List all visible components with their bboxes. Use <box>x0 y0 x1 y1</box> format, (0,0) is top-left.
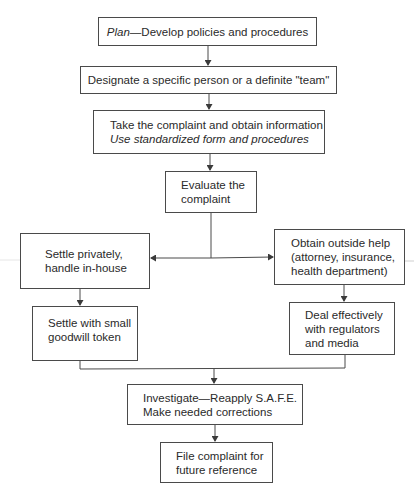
node-evaluate: Evaluate the complaint <box>165 171 257 213</box>
node-take-line2: Use standardized form and procedures <box>110 132 309 146</box>
node-outside-help-line3: health department) <box>291 264 388 278</box>
node-evaluate-line2: complaint <box>181 192 230 206</box>
node-outside-help: Obtain outside help (attorney, insurance… <box>274 229 405 285</box>
node-file-complaint: File complaint for future reference <box>160 442 273 483</box>
node-settle-private-line2: handle in-house <box>45 261 127 275</box>
node-take-complaint: Take the complaint and obtain informatio… <box>93 110 325 154</box>
node-designate: Designate a specific person or a definit… <box>80 66 337 94</box>
node-settle-small-line1: Settle with small <box>48 316 131 330</box>
node-outside-help-line1: Obtain outside help <box>291 236 390 250</box>
node-investigate-line1: Investigate—Reapply S.A.F.E. <box>143 391 297 405</box>
node-deal: Deal effectively with regulators and med… <box>289 302 395 355</box>
arrow-evaluate-outside-help <box>211 257 273 258</box>
node-plan: Plan—Develop policies and procedures <box>98 17 317 46</box>
node-settle-small: Settle with small goodwill token <box>32 306 138 361</box>
node-investigate: Investigate—Reapply S.A.F.E. Make needed… <box>127 384 303 425</box>
node-take-line1: Take the complaint and obtain informatio… <box>110 118 323 132</box>
node-settle-private-line1: Settle privately, <box>45 247 123 261</box>
node-deal-line2: with regulators <box>305 322 380 336</box>
node-designate-text: Designate a specific person or a definit… <box>88 73 330 87</box>
node-file-line1: File complaint for <box>176 449 264 463</box>
node-evaluate-line1: Evaluate the <box>181 178 245 192</box>
node-investigate-line2: Make needed corrections <box>143 405 272 419</box>
node-settle-small-line2: goodwill token <box>48 330 121 344</box>
node-settle-privately: Settle privately, handle in-house <box>20 233 150 289</box>
node-deal-line3: and media <box>305 336 359 350</box>
node-deal-line1: Deal effectively <box>305 308 383 322</box>
node-file-line2: future reference <box>176 463 257 477</box>
node-outside-help-line2: (attorney, insurance, <box>291 250 395 264</box>
node-plan-text: Plan—Develop policies and procedures <box>107 25 308 39</box>
